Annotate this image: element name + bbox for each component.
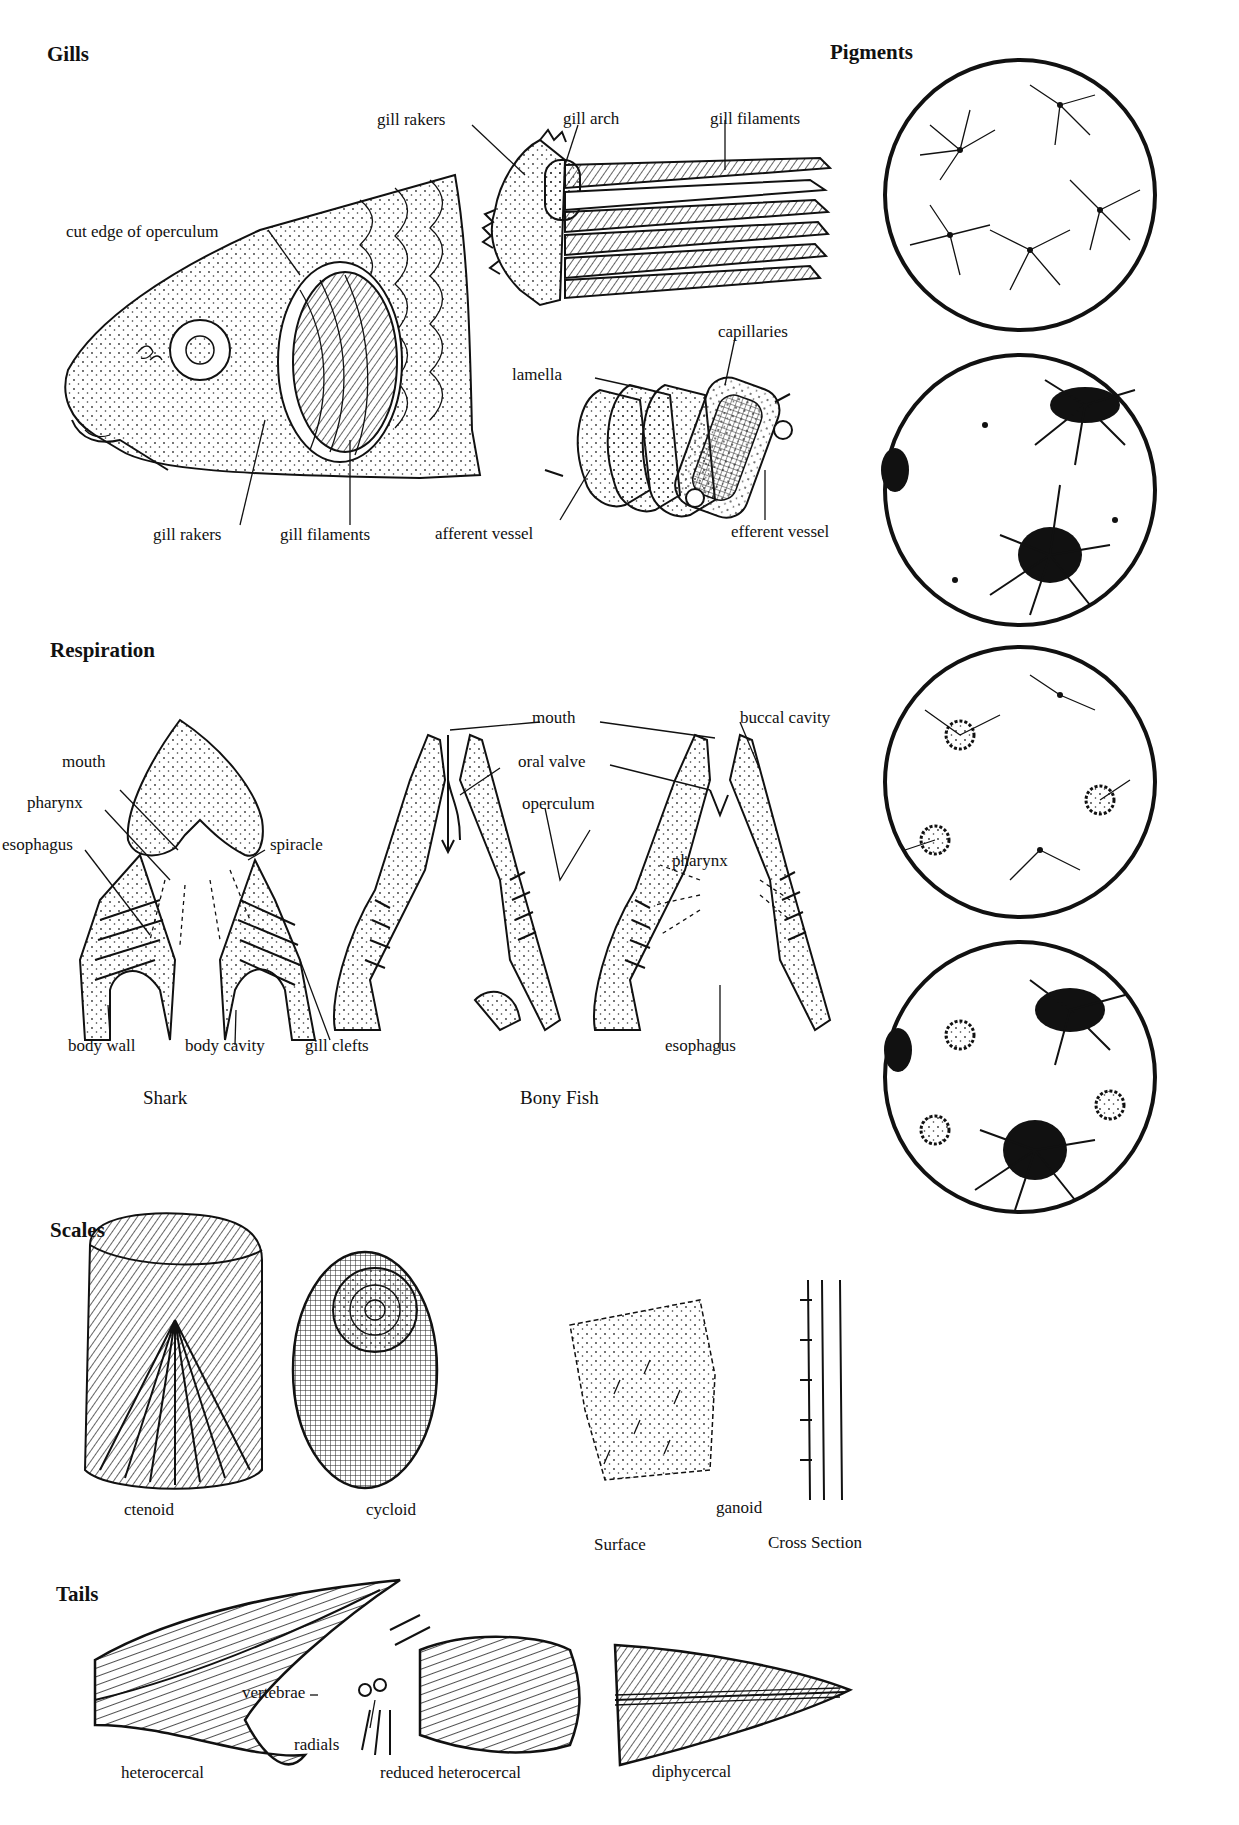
label-bony-pharynx: pharynx xyxy=(672,851,728,871)
label-oral-valve: oral valve xyxy=(518,752,586,772)
label-body-cavity: body cavity xyxy=(185,1036,265,1056)
label-afferent-vessel: afferent vessel xyxy=(435,524,533,544)
label-diphycercal: diphycercal xyxy=(652,1762,731,1782)
gill-arch-drawing xyxy=(483,130,830,305)
label-buccal-cavity: buccal cavity xyxy=(740,708,830,728)
ganoid-surface-drawing xyxy=(570,1300,715,1480)
section-title-pigments: Pigments xyxy=(830,40,913,65)
label-bony-mouth: mouth xyxy=(532,708,575,728)
label-reduced-heterocercal: reduced heterocercal xyxy=(380,1763,521,1783)
label-gill-rakers-top: gill rakers xyxy=(377,110,445,130)
reduced-heterocercal-tail-drawing xyxy=(359,1615,579,1755)
diphycercal-tail-drawing xyxy=(615,1645,850,1765)
pigment-circle-1 xyxy=(885,60,1155,330)
label-operculum: operculum xyxy=(522,794,595,814)
label-bony-esophagus: esophagus xyxy=(665,1036,736,1056)
label-ctenoid: ctenoid xyxy=(124,1500,174,1520)
label-radials: radials xyxy=(294,1735,339,1755)
section-title-gills: Gills xyxy=(47,42,89,67)
label-gill-arch: gill arch xyxy=(563,109,619,129)
label-ganoid-cross-section: Cross Section xyxy=(768,1533,862,1553)
label-gill-filaments-bottom: gill filaments xyxy=(280,525,370,545)
fish-head-drawing xyxy=(65,175,480,478)
shark-respiration-drawing xyxy=(80,720,315,1040)
bony-fish-respiration-right xyxy=(594,735,830,1030)
bony-fish-respiration-left xyxy=(334,735,560,1030)
section-title-tails: Tails xyxy=(56,1582,98,1607)
label-efferent-vessel: efferent vessel xyxy=(731,522,829,542)
label-gill-filaments-top: gill filaments xyxy=(710,109,800,129)
caption-bony-fish: Bony Fish xyxy=(520,1087,599,1109)
label-vertebrae: vertebrae xyxy=(242,1683,305,1703)
caption-shark: Shark xyxy=(143,1087,187,1109)
label-cycloid: cycloid xyxy=(366,1500,416,1520)
pigment-circle-2 xyxy=(881,355,1155,625)
section-title-respiration: Respiration xyxy=(50,638,155,663)
label-capillaries: capillaries xyxy=(718,322,788,342)
label-ganoid-surface: Surface xyxy=(594,1535,646,1555)
cycloid-scale-drawing xyxy=(293,1252,437,1488)
ganoid-cross-section-drawing xyxy=(800,1280,842,1500)
label-shark-esophagus: esophagus xyxy=(2,835,73,855)
lamella-drawing xyxy=(545,371,792,524)
label-ganoid: ganoid xyxy=(716,1498,762,1518)
label-shark-mouth: mouth xyxy=(62,752,105,772)
heterocercal-tail-drawing xyxy=(95,1580,400,1764)
label-gill-clefts: gill clefts xyxy=(305,1036,369,1056)
ctenoid-scale-drawing xyxy=(85,1213,262,1488)
label-gill-rakers-bottom: gill rakers xyxy=(153,525,221,545)
label-body-wall: body wall xyxy=(68,1036,136,1056)
label-shark-spiracle: spiracle xyxy=(270,835,323,855)
label-lamella: lamella xyxy=(512,365,562,385)
pigment-circle-3 xyxy=(885,647,1155,917)
label-heterocercal: heterocercal xyxy=(121,1763,204,1783)
section-title-scales: Scales xyxy=(50,1218,105,1243)
label-cut-edge-operculum: cut edge of operculum xyxy=(66,222,218,242)
pigment-circle-4 xyxy=(884,942,1155,1212)
label-shark-pharynx: pharynx xyxy=(27,793,83,813)
